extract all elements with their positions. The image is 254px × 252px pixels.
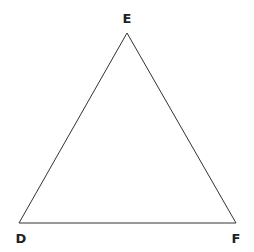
triangle-def <box>19 33 236 223</box>
vertex-label-e: E <box>123 11 132 26</box>
vertex-label-d: D <box>16 231 27 246</box>
vertex-label-f: F <box>232 231 241 246</box>
triangle-diagram: E D F <box>0 0 254 252</box>
